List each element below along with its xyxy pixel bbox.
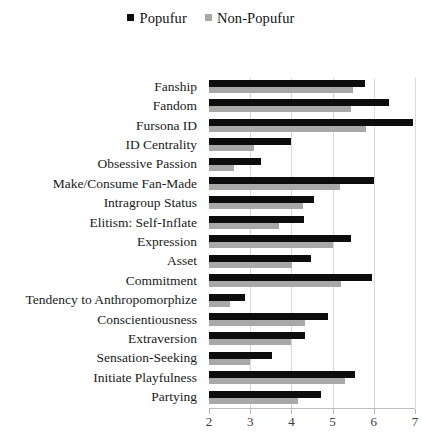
bar-popufur	[209, 371, 355, 378]
bar-popufur	[209, 158, 261, 165]
category-label: Initiate Playfulness	[93, 370, 197, 383]
bar-non-popufur	[209, 242, 333, 248]
bar-popufur	[209, 294, 245, 301]
bar-non-popufur	[209, 126, 366, 132]
bar-popufur	[209, 196, 314, 203]
bar-popufur	[209, 352, 272, 359]
bar-popufur	[209, 119, 413, 126]
bar-row	[209, 352, 415, 369]
legend-label-popufur: Popufur	[139, 10, 186, 27]
bar-row	[209, 274, 415, 291]
bar-non-popufur	[209, 184, 340, 190]
bar-rows	[209, 78, 415, 408]
category-label: Elitism: Self-Inflate	[89, 215, 197, 228]
bar-chart-figure: Popufur Non-Popufur FanshipFandomFursona…	[0, 0, 422, 442]
bar-row	[209, 216, 415, 233]
bar-row	[209, 332, 415, 349]
bar-row	[209, 158, 415, 175]
bar-non-popufur	[209, 378, 345, 384]
category-axis-labels: FanshipFandomFursona IDID CentralityObse…	[0, 78, 203, 408]
bar-non-popufur	[209, 223, 279, 229]
bar-non-popufur	[209, 262, 292, 268]
bar-popufur	[209, 177, 374, 184]
chart-legend: Popufur Non-Popufur	[0, 10, 422, 27]
gridline	[415, 78, 416, 408]
bar-row	[209, 294, 415, 311]
bar-popufur	[209, 138, 291, 145]
x-tick-label: 3	[247, 414, 254, 430]
category-label: Fandom	[153, 99, 197, 112]
category-label: Intragroup Status	[104, 196, 197, 209]
bar-popufur	[209, 80, 365, 87]
category-label: ID Centrality	[125, 137, 197, 150]
bar-non-popufur	[209, 398, 298, 404]
legend-swatch-popufur	[127, 14, 134, 21]
category-label: Asset	[167, 254, 197, 267]
x-tick-label: 7	[412, 414, 419, 430]
category-label: Tendency to Anthropomorphize	[25, 293, 197, 306]
bar-non-popufur	[209, 145, 254, 151]
legend-item-non-popufur: Non-Popufur	[205, 10, 295, 27]
plot-area	[209, 78, 415, 408]
bar-non-popufur	[209, 359, 250, 365]
category-label: Make/Consume Fan-Made	[53, 176, 197, 189]
bar-non-popufur	[209, 87, 353, 93]
bar-row	[209, 177, 415, 194]
category-label: Fanship	[154, 79, 197, 92]
x-tick-label: 2	[206, 414, 213, 430]
legend-label-non-popufur: Non-Popufur	[217, 10, 295, 27]
legend-item-popufur: Popufur	[127, 10, 186, 27]
category-label: Partying	[151, 390, 197, 403]
bar-row	[209, 235, 415, 252]
bar-popufur	[209, 235, 351, 242]
x-tick-label: 5	[329, 414, 336, 430]
x-tick-label: 4	[288, 414, 295, 430]
bar-row	[209, 313, 415, 330]
legend-swatch-non-popufur	[205, 14, 212, 21]
category-label: Fursona ID	[136, 118, 197, 131]
bar-non-popufur	[209, 165, 234, 171]
x-tick-label: 6	[371, 414, 378, 430]
category-label: Sensation-Seeking	[97, 351, 198, 364]
bar-row	[209, 119, 415, 136]
bar-row	[209, 255, 415, 272]
bar-row	[209, 138, 415, 155]
category-label: Expression	[137, 235, 197, 248]
bar-popufur	[209, 391, 321, 398]
x-axis-line	[209, 408, 415, 409]
category-label: Extraversion	[128, 332, 197, 345]
bar-row	[209, 99, 415, 116]
bar-popufur	[209, 332, 305, 339]
category-label: Commitment	[126, 273, 197, 286]
bar-popufur	[209, 313, 328, 320]
bar-non-popufur	[209, 320, 305, 326]
bar-non-popufur	[209, 301, 230, 307]
category-label: Conscientiousness	[97, 312, 197, 325]
bar-popufur	[209, 99, 389, 106]
bar-non-popufur	[209, 339, 291, 345]
bar-row	[209, 391, 415, 408]
bar-popufur	[209, 274, 372, 281]
bar-popufur	[209, 216, 304, 223]
bar-non-popufur	[209, 203, 303, 209]
bar-non-popufur	[209, 106, 351, 112]
bar-row	[209, 80, 415, 97]
category-label: Obsessive Passion	[98, 157, 197, 170]
bar-row	[209, 196, 415, 213]
bar-popufur	[209, 255, 311, 262]
bar-row	[209, 371, 415, 388]
bar-non-popufur	[209, 281, 341, 287]
